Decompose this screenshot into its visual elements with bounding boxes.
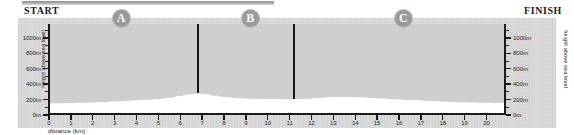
start-label: START [24,5,59,16]
plot-area [49,24,504,115]
x-tick-label-13: 13 [330,120,337,127]
y-tick-right-1000 [506,37,511,39]
y-tick-left-0 [43,114,48,116]
x-tick-5 [158,115,159,120]
x-tick-14 [355,115,356,120]
y-axis-title-right-text: height above sea level [563,30,569,88]
x-tick-label-17: 17 [418,120,425,127]
y-minor-tick-left-100 [45,107,48,108]
y-tick-right-400 [506,83,511,85]
x-tick-label-1: 1 [69,120,72,127]
x-tick-label-12: 12 [308,120,315,127]
y-minor-tick-left-1100 [45,30,48,31]
x-tick-13 [333,115,334,120]
elevation-area-series [49,24,504,115]
x-tick-label-15: 15 [374,120,381,127]
x-axis-title: distance (km) [48,127,85,134]
x-tick-label-6: 6 [179,120,182,127]
x-tick-label-19: 19 [461,120,468,127]
y-tick-right-600 [506,68,511,70]
course-marker-c[interactable]: C [394,9,413,28]
y-minor-tick-left-900 [45,45,48,46]
x-tick-8 [223,115,224,120]
y-tick-label-left-0: 0m [33,112,41,118]
x-tick-19 [464,115,465,120]
x-tick-3 [114,115,115,120]
x-tick-label-7: 7 [200,120,203,127]
x-tick-12 [311,115,312,120]
course-marker-b[interactable]: B [241,9,260,28]
y-tick-left-600 [43,68,48,70]
y-tick-label-right-600: 600m [513,66,528,72]
y-tick-label-right-200: 200m [513,97,528,103]
x-tick-16 [398,115,399,120]
y-minor-tick-right-700 [506,61,509,62]
x-tick-label-14: 14 [352,120,359,127]
y-tick-right-800 [506,53,511,55]
x-tick-label-2: 2 [91,120,94,127]
x-tick-label-5: 5 [157,120,160,127]
y-tick-label-left-400: 400m [26,81,41,87]
y-tick-label-left-200: 200m [26,97,41,103]
x-tick-label-0: 0 [47,120,50,127]
y-tick-right-200 [506,99,511,101]
x-tick-label-20: 20 [483,120,490,127]
x-tick-18 [442,115,443,120]
y-axis-title-right: height above sea level [563,30,569,88]
course-marker-a[interactable]: A [112,9,131,28]
y-minor-tick-right-100 [506,107,509,108]
x-tick-label-3: 3 [113,120,116,127]
y-minor-tick-right-300 [506,91,509,92]
x-axis [48,113,506,115]
x-tick-15 [376,115,377,120]
finish-label: FINISH [524,5,562,16]
y-minor-tick-left-700 [45,61,48,62]
x-tick-label-10: 10 [264,120,271,127]
x-tick-2 [92,115,93,120]
x-tick-label-9: 9 [244,120,247,127]
x-tick-label-16: 16 [396,120,403,127]
x-tick-9 [245,115,246,120]
y-tick-label-right-400: 400m [513,81,528,87]
y-tick-label-left-800: 800m [26,50,41,56]
elevation-profile-figure: START FINISH height above sea level heig… [0,0,574,135]
y-tick-right-0 [506,114,511,116]
x-tick-17 [420,115,421,120]
x-tick-label-18: 18 [439,120,446,127]
y-axis-left [48,24,50,115]
x-tick-4 [136,115,137,120]
x-tick-1 [70,115,71,120]
y-minor-tick-right-900 [506,45,509,46]
x-tick-10 [267,115,268,120]
y-tick-label-right-0: 0m [513,112,521,118]
y-tick-left-200 [43,99,48,101]
y-tick-left-1000 [43,37,48,39]
x-tick-11 [289,115,290,120]
top-divider-rule [22,1,274,5]
x-tick-label-4: 4 [135,120,138,127]
y-tick-label-right-1000: 1000m [513,35,531,41]
y-minor-tick-left-500 [45,76,48,77]
x-tick-6 [180,115,181,120]
section-divider-1 [197,24,199,93]
section-divider-2 [293,24,295,99]
y-minor-tick-left-300 [45,91,48,92]
x-tick-label-11: 11 [287,120,293,127]
y-tick-left-400 [43,83,48,85]
y-minor-tick-right-1100 [506,30,509,31]
y-tick-label-left-600: 600m [26,66,41,72]
y-tick-label-right-800: 800m [513,50,528,56]
y-tick-left-800 [43,53,48,55]
x-tick-0 [48,115,49,120]
y-minor-tick-right-500 [506,76,509,77]
x-tick-7 [201,115,202,120]
x-tick-20 [486,115,487,120]
x-tick-label-8: 8 [222,120,225,127]
y-tick-label-left-1000: 1000m [23,35,41,41]
